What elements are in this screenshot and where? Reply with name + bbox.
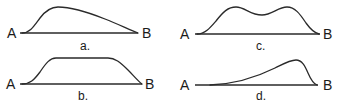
point-a-label: A bbox=[7, 25, 17, 41]
panel-d: A B d. bbox=[180, 60, 332, 103]
panel-c: A B c. bbox=[180, 7, 332, 53]
curve-a bbox=[22, 7, 138, 33]
panel-caption: a. bbox=[80, 39, 90, 53]
point-a-label: A bbox=[180, 26, 190, 42]
point-a-label: A bbox=[6, 76, 16, 92]
point-b-label: B bbox=[323, 26, 332, 42]
panel-caption: c. bbox=[256, 39, 265, 53]
panel-b: A B b. bbox=[6, 58, 154, 103]
curve-b bbox=[22, 58, 142, 84]
curve-d bbox=[210, 60, 317, 85]
panel-caption: d. bbox=[256, 89, 266, 103]
point-a-label: A bbox=[180, 77, 190, 93]
point-b-label: B bbox=[145, 76, 154, 92]
diagram-canvas: A B a. A B b. A B c. A B d. bbox=[0, 0, 341, 106]
panel-a: A B a. bbox=[7, 7, 151, 53]
point-b-label: B bbox=[142, 25, 151, 41]
point-b-label: B bbox=[323, 77, 332, 93]
panel-caption: b. bbox=[78, 89, 88, 103]
curve-c bbox=[197, 7, 319, 34]
